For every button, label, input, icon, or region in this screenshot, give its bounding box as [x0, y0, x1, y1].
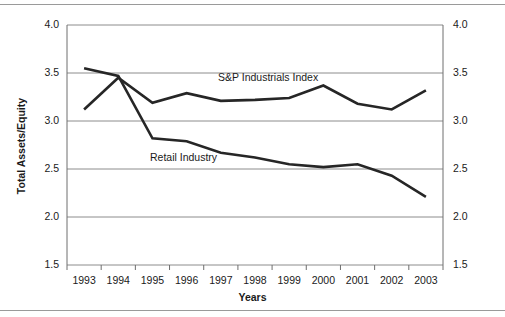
y-tick-label-left-1.5: 1.5: [29, 258, 59, 270]
x-axis-title: Years: [0, 291, 505, 303]
series-label-retail-industry: Retail Industry: [150, 151, 217, 163]
y-tick-label-right-2.0: 2.0: [453, 210, 483, 222]
y-tick-label-right-3.0: 3.0: [453, 114, 483, 126]
y-tick-label-right-4.0: 4.0: [453, 18, 483, 30]
data-series-group: [84, 68, 426, 197]
y-tick-label-left-4.0: 4.0: [29, 18, 59, 30]
gridlines-group: [67, 25, 443, 265]
y-tick-label-left-2.5: 2.5: [29, 162, 59, 174]
x-tick-label-2003: 2003: [406, 274, 446, 286]
y-tick-label-right-1.5: 1.5: [453, 258, 483, 270]
x-axis-ticks: [67, 265, 443, 270]
y-tick-label-right-2.5: 2.5: [453, 162, 483, 174]
plot-frame: [67, 25, 443, 265]
series-line-retail-industry: [84, 68, 426, 197]
y-tick-label-left-2.0: 2.0: [29, 210, 59, 222]
chart-figure: 1.52.02.53.03.54.0 1.52.02.53.03.54.0 19…: [0, 0, 505, 317]
y-axis-title: Total Assets/Equity: [15, 81, 27, 211]
y-tick-label-left-3.0: 3.0: [29, 114, 59, 126]
y-tick-label-left-3.5: 3.5: [29, 66, 59, 78]
line-chart-plot: [0, 0, 505, 317]
series-label-sp-industrials-index: S&P Industrials Index: [218, 71, 318, 83]
y-tick-label-right-3.5: 3.5: [453, 66, 483, 78]
